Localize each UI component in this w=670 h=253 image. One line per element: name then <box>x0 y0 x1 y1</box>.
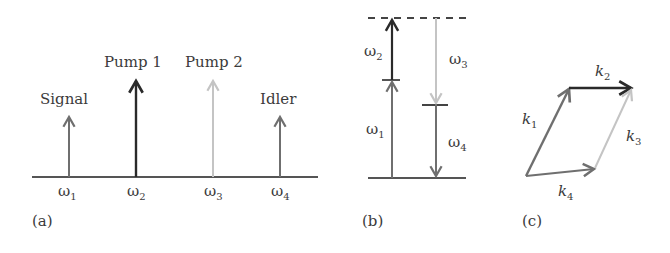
k1-vector <box>526 89 569 176</box>
signal-label: Signal <box>40 92 88 107</box>
b-omega2-label: ω2 <box>364 44 383 59</box>
omega1-tick-label: ω1 <box>58 184 77 199</box>
diagram-canvas <box>0 0 670 253</box>
k1-label: k1 <box>522 112 537 127</box>
pump2-label: Pump 2 <box>185 55 243 70</box>
omega4-tick-label: ω4 <box>271 184 290 199</box>
panel-c-caption: (c) <box>522 214 542 229</box>
k4-label: k4 <box>558 184 573 199</box>
panel-b-energy-levels <box>368 18 468 178</box>
omega2-tick-label: ω2 <box>127 184 146 199</box>
k3-label: k3 <box>626 129 641 144</box>
panel-c-phase-matching <box>526 88 631 176</box>
panel-b-caption: (b) <box>362 214 383 229</box>
b-omega4-label: ω4 <box>448 135 467 150</box>
b-omega3-label: ω3 <box>449 52 468 67</box>
pump1-label: Pump 1 <box>104 55 162 70</box>
k2-label: k2 <box>595 64 610 79</box>
b-omega1-label: ω1 <box>366 122 385 137</box>
idler-label: Idler <box>260 92 296 107</box>
omega3-tick-label: ω3 <box>204 184 223 199</box>
k4-vector <box>526 169 594 176</box>
panel-a-caption: (a) <box>32 214 53 229</box>
